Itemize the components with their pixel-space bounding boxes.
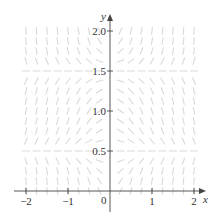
y-axis-label: y [100, 10, 106, 22]
slope-segment [87, 118, 91, 124]
slope-segment [35, 58, 37, 65]
slope-segment [47, 28, 48, 35]
slope-segment [193, 138, 196, 144]
slope-segment [182, 138, 185, 144]
slope-segment [173, 38, 174, 45]
slope-segment [117, 160, 123, 163]
slope-segment [140, 48, 142, 55]
slope-segment [26, 168, 27, 175]
slope-segment [25, 128, 27, 135]
slope-segment [66, 58, 70, 64]
slope-segment [150, 158, 154, 164]
slope-segment [172, 48, 173, 55]
slope-segment [194, 178, 195, 185]
slope-segment [46, 128, 48, 135]
slope-segment [87, 168, 90, 174]
slope-segment [97, 99, 103, 103]
slope-segment [96, 160, 102, 163]
slope-segment [183, 178, 184, 185]
slope-segment [57, 108, 59, 115]
slope-segment [172, 88, 174, 95]
slope-segment [76, 58, 80, 63]
slope-segment [151, 168, 153, 175]
slope-segment [88, 28, 90, 35]
slope-segment [183, 98, 184, 105]
slope-segment [171, 78, 174, 84]
slope-segment [129, 98, 133, 104]
slope-segment [66, 138, 70, 143]
slope-segment [56, 88, 58, 95]
slope-segment [45, 138, 48, 144]
slope-segment [140, 168, 142, 175]
slope-segment [139, 139, 144, 144]
slope-segment [98, 178, 102, 184]
slope-segment [66, 158, 70, 164]
slope-segment [77, 48, 79, 55]
slope-segment [130, 178, 132, 185]
slope-segment [172, 168, 173, 175]
slope-segment [46, 48, 47, 55]
slope-segment [86, 79, 92, 83]
slope-segment [162, 178, 163, 185]
slope-segment [25, 158, 27, 165]
slope-segment [36, 88, 38, 95]
slope-segment [118, 99, 124, 103]
slope-segment [26, 38, 27, 45]
slope-segment [172, 58, 175, 64]
slope-segment [67, 38, 68, 45]
slope-segment [129, 108, 133, 114]
slope-segment [194, 48, 195, 55]
slope-segment [162, 168, 164, 175]
slope-segment [129, 48, 132, 54]
slope-segment [151, 128, 154, 134]
slope-segment [117, 129, 123, 132]
slope-segment [86, 59, 91, 63]
slope-segment [78, 178, 80, 185]
slope-segment [194, 168, 195, 175]
slope-segment [57, 178, 58, 185]
slope-segment [128, 139, 134, 143]
slope-segment [36, 118, 37, 125]
slope-segment [88, 38, 90, 45]
slope-segment [25, 118, 26, 125]
slope-segment [46, 108, 48, 115]
slope-segment [46, 168, 47, 175]
slope-segment [87, 48, 90, 54]
slope-segment [161, 88, 163, 95]
slope-segment [98, 38, 102, 44]
slope-segment [46, 98, 48, 105]
slope-segment [35, 158, 37, 165]
slope-segment [193, 88, 195, 95]
slope-segment [162, 38, 163, 45]
slope-segment [88, 178, 90, 185]
slope-segment [150, 138, 154, 143]
slope-segment [140, 118, 143, 124]
slope-segment [162, 28, 163, 35]
slope-segment [118, 169, 123, 174]
slope-segment [57, 168, 59, 175]
slope-segment [25, 78, 28, 84]
slope-segment [36, 168, 37, 175]
slope-segment [128, 59, 133, 63]
slope-segment [96, 80, 103, 82]
slope-segment [183, 168, 184, 175]
slope-segment [172, 158, 175, 164]
slope-segment [36, 128, 38, 135]
slope-segment [36, 48, 37, 55]
slope-segment [161, 58, 164, 64]
slope-segment [139, 58, 143, 63]
slope-segment [46, 118, 48, 125]
slope-segment [45, 78, 48, 84]
slope-segment [173, 178, 174, 185]
slope-segment [25, 58, 27, 65]
slope-segment [77, 88, 81, 94]
slope-segment [35, 78, 38, 84]
slope-segment [118, 109, 124, 113]
slope-segment [77, 98, 80, 104]
slope-segment [97, 49, 102, 54]
slope-segment [161, 118, 163, 125]
slope-segment [119, 178, 123, 184]
y-axis-arrow-icon [107, 14, 113, 21]
slope-segment [161, 158, 164, 164]
slope-segment [117, 80, 124, 82]
